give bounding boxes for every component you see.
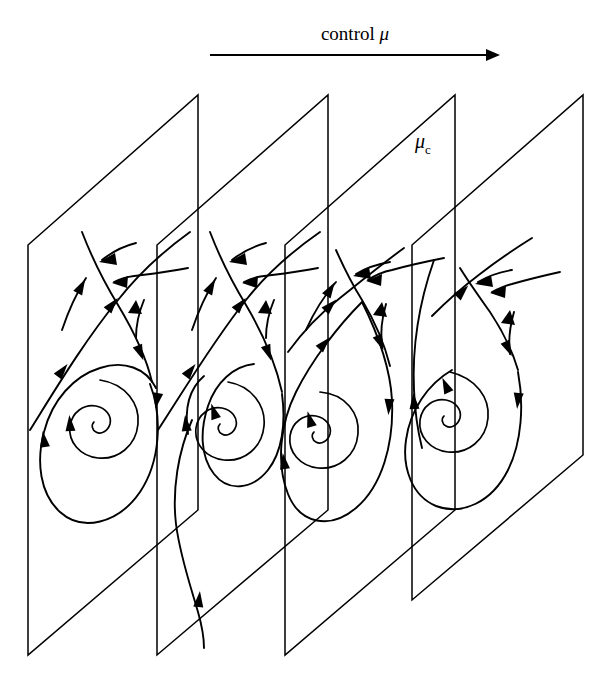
panel-1-arrow-4 — [112, 276, 128, 288]
panel-2-arrow-3 — [261, 344, 276, 362]
diagram-canvas: control μ — [0, 0, 600, 686]
panel-4-separatrix-incoming — [432, 238, 532, 316]
control-axis-label: control μ — [321, 23, 389, 44]
panel-3-spiral — [290, 392, 358, 468]
panel-3-homoclinic-loop — [281, 302, 392, 521]
plane-3-outline — [285, 95, 455, 655]
control-axis-group: control μ — [210, 23, 500, 61]
panel-1-arrow-7 — [73, 277, 89, 296]
bifurcation-diagram-figure: control μ — [0, 0, 600, 686]
critical-value-symbol: μ — [414, 130, 425, 153]
panel-4-outer-branch — [405, 370, 521, 509]
panel-1-arrow-1 — [54, 361, 72, 380]
panel-2-arrow-4 — [242, 276, 258, 288]
phase-plane-4 — [405, 95, 583, 600]
control-axis-arrowhead — [486, 49, 500, 61]
panel-2-arrow-7 — [203, 277, 219, 296]
panel-2-inner-loop — [203, 364, 284, 486]
panel-4-arrow-1 — [454, 282, 472, 300]
panel-4-arrow-7 — [408, 393, 419, 410]
panel-3-flow — [278, 248, 444, 521]
plane-2-outline — [157, 95, 328, 655]
panel-3-arrow-4 — [353, 267, 371, 279]
panel-2-arrow-6 — [258, 300, 272, 314]
panel-4-spiral — [420, 372, 488, 452]
panel-3-arrow-9 — [278, 452, 290, 469]
panel-3-separatrix-incoming — [288, 248, 404, 352]
panel-1-outer-loop — [40, 365, 158, 523]
panel-2-lower-tail — [175, 420, 204, 648]
control-axis-label-symbol: μ — [379, 23, 390, 44]
phase-plane-3: μc — [278, 95, 455, 655]
panel-4-flow — [405, 238, 560, 509]
critical-value-subscript: c — [425, 142, 431, 157]
panel-2-separatrix-outgoing — [210, 232, 282, 392]
panel-1-flow — [30, 232, 190, 523]
panel-1-arrow-6 — [128, 300, 142, 314]
phase-plane-2 — [157, 95, 328, 655]
critical-value-label: μc — [414, 130, 431, 157]
phase-plane-1 — [28, 95, 198, 655]
panel-1-spiral — [70, 380, 138, 458]
panel-4-left-line — [414, 260, 434, 448]
plane-1-outline — [28, 95, 198, 655]
control-axis-label-text: control — [321, 23, 375, 44]
panel-4-arrow-3 — [490, 286, 506, 298]
panel-3-arrow-10 — [303, 410, 317, 428]
panel-2-spiral — [196, 382, 264, 460]
